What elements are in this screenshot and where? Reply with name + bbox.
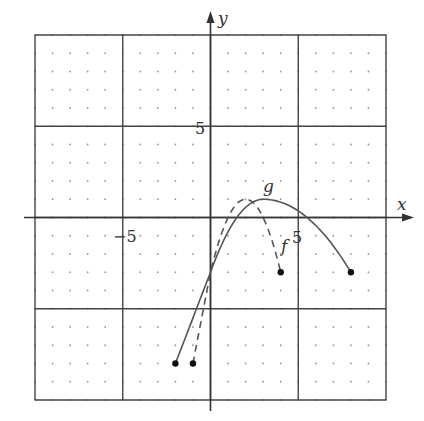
y-axis-label: y <box>217 8 228 28</box>
axes <box>24 11 414 411</box>
endpoint-markers <box>172 269 354 367</box>
curve-label-g: g <box>263 176 274 196</box>
x-tick-label-neg5: −5 <box>113 227 137 246</box>
y-tick-label-5: 5 <box>195 119 205 138</box>
x-axis-label: x <box>397 194 407 214</box>
curve-label-f: f <box>279 236 290 256</box>
coordinate-plane: x y −5 5 5 g f <box>0 0 424 421</box>
x-tick-label-5: 5 <box>292 228 302 247</box>
curve-g <box>175 199 351 363</box>
